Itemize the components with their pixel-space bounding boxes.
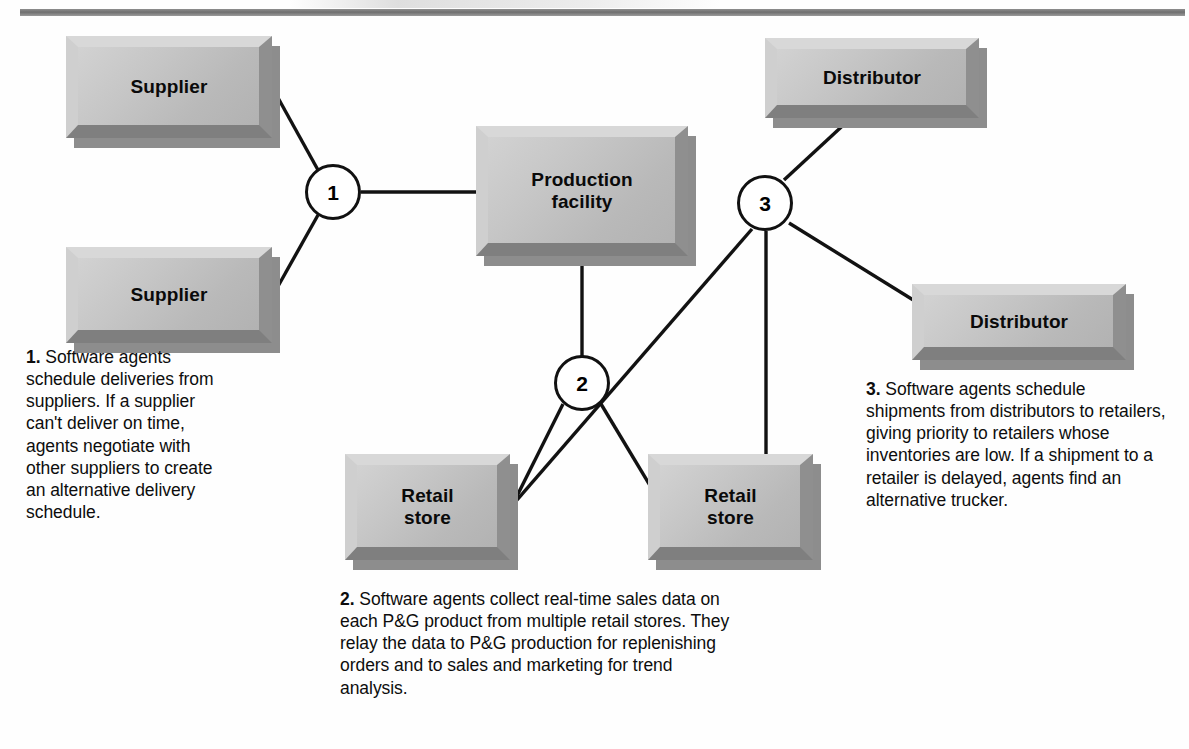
caption-3: 3. Software agents schedule shipments fr…	[866, 378, 1166, 511]
node-label: Distributor	[970, 311, 1068, 333]
box-face: Production facility	[476, 126, 688, 256]
caption-1: 1. Software agents schedule deliveries f…	[26, 346, 222, 523]
node-supplier-top[interactable]: Supplier	[66, 36, 272, 138]
node-label: Supplier	[131, 284, 208, 306]
node-production-facility[interactable]: Production facility	[476, 126, 688, 256]
junction-2[interactable]: 2	[554, 355, 610, 411]
node-retail-store-right[interactable]: Retail store	[648, 454, 813, 560]
junction-label: 2	[576, 373, 588, 394]
caption-1-number: 1.	[26, 347, 41, 367]
box-face: Retail store	[345, 454, 510, 560]
caption-1-text: Software agents schedule deliveries from…	[26, 347, 214, 522]
box-face: Distributor	[765, 38, 979, 118]
node-retail-store-left[interactable]: Retail store	[345, 454, 510, 560]
node-label: Supplier	[131, 76, 208, 98]
box-face: Supplier	[66, 247, 272, 343]
caption-2-text: Software agents collect real-time sales …	[340, 589, 729, 698]
node-label: Distributor	[823, 67, 921, 89]
junction-label: 1	[327, 182, 339, 203]
caption-2-number: 2.	[340, 589, 355, 609]
node-label: Retail store	[401, 485, 453, 528]
node-distributor-right[interactable]: Distributor	[912, 284, 1126, 360]
caption-2: 2. Software agents collect real-time sal…	[340, 588, 740, 699]
caption-3-text: Software agents schedule shipments from …	[866, 379, 1165, 510]
node-label: Retail store	[704, 485, 756, 528]
junction-label: 3	[759, 193, 771, 214]
node-distributor-top[interactable]: Distributor	[765, 38, 979, 118]
node-supplier-bottom[interactable]: Supplier	[66, 247, 272, 343]
junction-3[interactable]: 3	[737, 175, 793, 231]
box-face: Supplier	[66, 36, 272, 138]
caption-3-number: 3.	[866, 379, 881, 399]
box-face: Distributor	[912, 284, 1126, 360]
junction-1[interactable]: 1	[305, 164, 361, 220]
node-label: Production facility	[531, 169, 632, 212]
box-face: Retail store	[648, 454, 813, 560]
diagram-canvas: Supplier Supplier Production facility Di…	[0, 0, 1189, 749]
edge-distributor-right-to-junction-3	[789, 223, 931, 311]
